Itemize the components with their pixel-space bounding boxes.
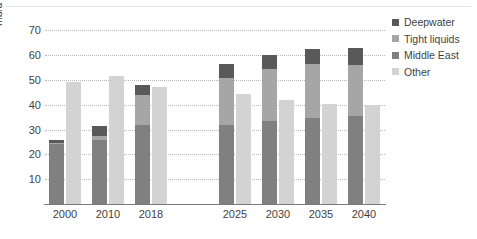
legend-swatch-icon	[392, 52, 399, 59]
bar-segment-middle-east-2025	[219, 125, 234, 204]
bar-segment-tight-liquids-2010	[92, 136, 107, 139]
bar-segment-tight-liquids-2025	[219, 78, 234, 125]
y-tick-70: 70	[11, 25, 41, 36]
plot-bars	[45, 18, 385, 204]
bar-segment-middle-east-2030	[262, 121, 277, 204]
legend-item-middle-east[interactable]: Middle East	[392, 47, 476, 64]
bar-group-2010	[92, 18, 124, 204]
stacked-bar-2035[interactable]	[305, 49, 320, 204]
legend-label: Deepwater	[404, 17, 455, 28]
bar-group-2025	[219, 18, 251, 204]
bar-other-2010[interactable]	[109, 76, 124, 204]
x-tick-2030: 2030	[256, 208, 300, 220]
bar-segment-deepwater-2018	[135, 85, 150, 95]
stacked-bar-2018[interactable]	[135, 85, 150, 204]
bar-other-2040[interactable]	[365, 105, 380, 204]
bar-segment-deepwater-2025	[219, 64, 234, 78]
chart-legend: DeepwaterTight liquidsMiddle EastOther	[392, 14, 476, 80]
bar-segment-deepwater-2030	[262, 55, 277, 69]
y-tick-60: 60	[11, 50, 41, 61]
bar-segment-deepwater-2035	[305, 49, 320, 64]
bar-segment-middle-east-2000	[49, 144, 64, 204]
legend-label: Other	[404, 67, 430, 78]
y-tick-40: 40	[11, 99, 41, 110]
bar-segment-tight-liquids-2035	[305, 64, 320, 119]
bar-segment-deepwater-2000	[49, 140, 64, 143]
bar-segment-deepwater-2010	[92, 126, 107, 136]
bar-other-2018[interactable]	[152, 87, 167, 204]
bar-segment-tight-liquids-2040	[348, 65, 363, 116]
bar-segment-tight-liquids-2030	[262, 69, 277, 121]
bar-segment-tight-liquids-2018	[135, 95, 150, 125]
legend-swatch-icon	[392, 35, 399, 42]
bar-other-2035[interactable]	[322, 104, 337, 204]
x-axis-line	[44, 204, 386, 205]
x-tick-2010: 2010	[86, 208, 130, 220]
bar-segment-tight-liquids-2000	[49, 143, 64, 145]
legend-label: Middle East	[404, 50, 459, 61]
y-axis-unit-label: mb/d	[0, 3, 4, 26]
stacked-bar-2030[interactable]	[262, 55, 277, 204]
bar-other-2025[interactable]	[236, 94, 251, 204]
x-tick-2040: 2040	[342, 208, 386, 220]
x-tick-2025: 2025	[213, 208, 257, 220]
bar-chart: mb/d 10203040506070 20002010201820252030…	[0, 0, 477, 239]
bar-group-2030	[262, 18, 294, 204]
y-tick-20: 20	[11, 149, 41, 160]
legend-label: Tight liquids	[404, 34, 460, 45]
stacked-bar-2025[interactable]	[219, 64, 234, 204]
bar-group-2040	[348, 18, 380, 204]
y-axis-tick-labels: 10203040506070	[8, 18, 41, 204]
bar-segment-deepwater-2040	[348, 48, 363, 65]
legend-swatch-icon	[392, 19, 399, 26]
y-tick-10: 10	[11, 174, 41, 185]
stacked-bar-2040[interactable]	[348, 48, 363, 204]
legend-item-tight-liquids[interactable]: Tight liquids	[392, 31, 476, 48]
bar-other-2000[interactable]	[66, 82, 81, 204]
x-axis-tick-labels: 2000201020182025203020352040	[45, 208, 385, 228]
legend-item-deepwater[interactable]: Deepwater	[392, 14, 476, 31]
x-tick-2035: 2035	[299, 208, 343, 220]
bar-other-2030[interactable]	[279, 100, 294, 204]
x-tick-2018: 2018	[129, 208, 173, 220]
bar-segment-middle-east-2040	[348, 116, 363, 204]
bar-group-2018	[135, 18, 167, 204]
bar-group-2035	[305, 18, 337, 204]
y-tick-50: 50	[11, 75, 41, 86]
bar-segment-middle-east-2035	[305, 118, 320, 204]
legend-item-other[interactable]: Other	[392, 64, 476, 81]
bar-group-2000	[49, 18, 81, 204]
bar-segment-middle-east-2018	[135, 125, 150, 204]
stacked-bar-2000[interactable]	[49, 140, 64, 204]
y-tick-30: 30	[11, 124, 41, 135]
top-divider	[6, 6, 471, 7]
legend-swatch-icon	[392, 68, 399, 75]
stacked-bar-2010[interactable]	[92, 126, 107, 204]
x-tick-2000: 2000	[43, 208, 87, 220]
bar-segment-middle-east-2010	[92, 140, 107, 204]
